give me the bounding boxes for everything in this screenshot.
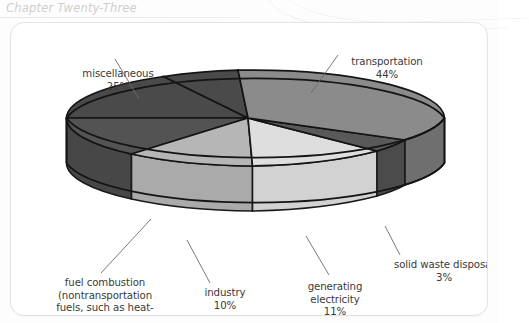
slice-label-industry: industry 10%: [180, 287, 270, 312]
leader-line-industry: [187, 240, 210, 283]
header-rule: [0, 17, 240, 18]
slice-label-miscellaneous: miscellaneous 25%: [58, 68, 178, 93]
leader-line-solid-waste-disposal: [385, 226, 400, 255]
slice-label-solid-waste-disposal: solid waste disposal 3%: [382, 259, 488, 284]
slice-label-fuel-combustion: fuel combustion (nontransportation fuels…: [34, 277, 176, 316]
leader-line-fuel-combustion: [101, 219, 151, 273]
slice-label-transportation: transportation 44%: [323, 56, 451, 81]
running-head-chapter-title: Chapter Twenty-Three: [6, 1, 137, 15]
leader-line-generating-electricity: [306, 236, 329, 275]
figure-card: miscellaneous 25% transportation 44% fue…: [10, 22, 488, 316]
slice-label-generating-electricity: generating electricity 11%: [289, 281, 381, 316]
